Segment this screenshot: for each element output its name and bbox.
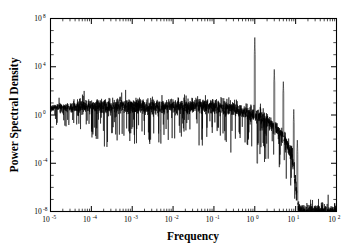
x-tick-exponent: -2 — [174, 214, 179, 220]
x-tick-label: 10 — [165, 215, 173, 224]
y-tick-label: 10 — [34, 207, 42, 216]
x-tick-label: 10 — [287, 215, 295, 224]
x-tick-label: 10 — [42, 215, 50, 224]
x-axis-title: Frequency — [167, 230, 219, 243]
x-tick-label: 10 — [247, 215, 255, 224]
y-tick-label: 10 — [34, 159, 42, 168]
y-tick-label: 10 — [34, 111, 42, 120]
x-tick-label: 10 — [328, 215, 336, 224]
x-tick-exponent: 1 — [297, 214, 300, 220]
y-tick-label: 10 — [34, 62, 42, 71]
psd-chart-svg: 10-510-410-310-210-1100101102 10-810-410… — [0, 0, 359, 250]
y-tick-exponent: 0 — [43, 109, 46, 115]
y-tick-label: 10 — [34, 14, 42, 23]
x-tick-exponent: -5 — [52, 214, 57, 220]
x-tick-label: 10 — [124, 215, 132, 224]
x-tick-exponent: -3 — [133, 214, 138, 220]
y-tick-exponent: 4 — [43, 61, 46, 67]
x-tick-exponent: 2 — [338, 214, 341, 220]
y-tick-exponent: 8 — [43, 13, 46, 19]
y-axis-title: Power Spectral Density — [8, 57, 21, 172]
x-tick-label: 10 — [83, 215, 91, 224]
x-tick-exponent: 0 — [256, 214, 259, 220]
x-tick-exponent: -4 — [93, 214, 98, 220]
y-tick-exponent: -4 — [43, 157, 48, 163]
x-tick-label: 10 — [206, 215, 214, 224]
x-tick-exponent: -1 — [215, 214, 220, 220]
y-tick-exponent: -8 — [43, 206, 48, 212]
psd-figure: 10-510-410-310-210-1100101102 10-810-410… — [0, 0, 359, 250]
